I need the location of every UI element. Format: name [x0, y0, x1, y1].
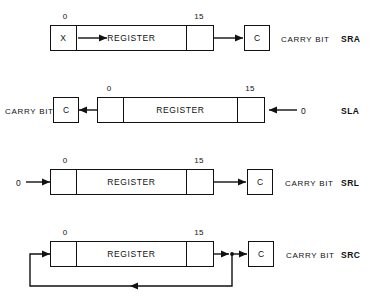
register-cell-bit0-src: [51, 242, 77, 266]
shift-instructions-diagram: 0 15 X REGISTER C CARRY BIT SRA 0 15 CAR…: [0, 0, 374, 303]
register-bar-sla: REGISTER: [97, 97, 265, 123]
register-cell-bit15-src: [187, 242, 213, 266]
register-cell-bit15-srl: [187, 170, 213, 194]
carry-box-sra: C: [244, 25, 270, 51]
carry-bit-label-srl: CARRY BIT: [285, 179, 334, 188]
diagram-row-sra: 0 15 X REGISTER C CARRY BIT SRA: [0, 0, 374, 72]
diagram-row-sla: 0 15 CARRY BIT C REGISTER 0 SLA: [0, 72, 374, 144]
opcode-label-sla: SLA: [341, 106, 360, 116]
register-bar-src: REGISTER: [50, 241, 214, 267]
register-cell-bit0-srl: [51, 170, 77, 194]
zero-input-label-sla: 0: [301, 106, 306, 116]
carry-bit-label-src: CARRY BIT: [286, 251, 335, 260]
register-body-src: REGISTER: [77, 242, 187, 266]
carry-box-src: C: [248, 241, 274, 267]
opcode-label-sra: SRA: [341, 34, 360, 44]
register-cell-bit0-sla: [98, 98, 124, 122]
register-cell-bit15-sla: [238, 98, 264, 122]
opcode-label-srl: SRL: [341, 178, 360, 188]
opcode-label-src: SRC: [341, 250, 360, 260]
carry-box-srl: C: [247, 169, 273, 195]
diagram-row-src: 0 15 REGISTER C CARRY BIT SRC: [0, 216, 374, 303]
diagram-row-srl: 0 15 0 REGISTER C CARRY BIT SRL: [0, 144, 374, 216]
register-body-srl: REGISTER: [77, 170, 187, 194]
register-bar-srl: REGISTER: [50, 169, 214, 195]
register-body-sla: REGISTER: [124, 98, 238, 122]
carry-bit-label-sra: CARRY BIT: [281, 35, 330, 44]
